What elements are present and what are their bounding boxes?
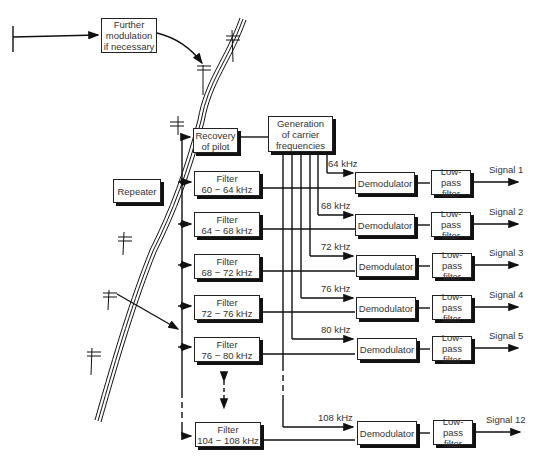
- bandpass-filter-4: Filter72 − 76 kHz: [194, 295, 260, 320]
- recovery-label: of pilot: [195, 141, 235, 152]
- lowpass-label: Low-pass: [433, 291, 471, 313]
- carrier-label-12: 108 kHz: [318, 412, 353, 423]
- demodulator-label: Demodulator: [358, 220, 412, 231]
- carrier-generation-block: Generation of carrier frequencies: [268, 116, 333, 152]
- further-modulation-label: Further: [104, 19, 155, 30]
- repeater-label: Repeater: [117, 186, 156, 197]
- lowpass-filter-2: Low-passfilter: [431, 212, 471, 237]
- signal-output-5: Signal 5: [489, 330, 523, 341]
- filter-range: 72 − 76 kHz: [202, 308, 253, 319]
- lowpass-filter-5: Low-passfilter: [432, 336, 472, 361]
- filter-range: 104 − 108 kHz: [197, 435, 259, 446]
- lowpass-label: Low-pass: [434, 416, 472, 438]
- filter-range: 60 − 64 kHz: [202, 184, 253, 195]
- demodulator-4: Demodulator: [356, 297, 416, 319]
- filter-range: 64 − 68 kHz: [202, 225, 253, 236]
- lowpass-filter-3: Low-passfilter: [432, 253, 472, 278]
- further-modulation-block: Further modulation if necessary: [101, 18, 157, 53]
- demodulator-2: Demodulator: [355, 214, 415, 236]
- carrier-label-2: 68 kHz: [321, 200, 351, 211]
- carrier-generation-label: frequencies: [276, 140, 325, 151]
- carrier-generation-label: of carrier: [276, 129, 325, 140]
- bandpass-filter-3: Filter68 − 72 kHz: [194, 254, 260, 279]
- filter-title: Filter: [202, 214, 253, 225]
- recovery-of-pilot-block: Recovery of pilot: [193, 128, 238, 153]
- carrier-label-3: 72 kHz: [321, 241, 351, 252]
- filter-title: Filter: [202, 173, 253, 184]
- lowpass-label: filter: [433, 313, 471, 324]
- carrier-label-1: 64 kHz: [328, 158, 358, 169]
- filter-title: Filter: [202, 256, 253, 267]
- signal-output-3: Signal 3: [489, 247, 523, 258]
- demodulator-label: Demodulator: [359, 303, 413, 314]
- bandpass-filter-12: Filter104 − 108 kHz: [195, 422, 261, 447]
- demodulator-label: Demodulator: [358, 178, 412, 189]
- lowpass-label: filter: [433, 271, 471, 282]
- carrier-label-4: 76 kHz: [321, 283, 351, 294]
- signal-output-4: Signal 4: [489, 289, 523, 300]
- further-modulation-label: modulation: [104, 30, 155, 41]
- carrier-generation-label: Generation: [276, 118, 325, 129]
- demodulator-label: Demodulator: [359, 261, 413, 272]
- demodulator-12: Demodulator: [357, 421, 417, 445]
- bandpass-filter-1: Filter60 − 64 kHz: [194, 171, 260, 196]
- carrier-label-5: 80 kHz: [321, 324, 351, 335]
- further-modulation-label: if necessary: [104, 41, 155, 52]
- lowpass-label: Low-pass: [432, 208, 470, 230]
- recovery-label: Recovery: [195, 130, 235, 141]
- filter-title: Filter: [202, 339, 253, 350]
- lowpass-label: filter: [432, 230, 470, 241]
- demodulator-label: Demodulator: [360, 428, 414, 439]
- bandpass-filter-2: Filter64 − 68 kHz: [194, 212, 260, 237]
- lowpass-label: Low-pass: [433, 249, 471, 271]
- filter-range: 76 − 80 kHz: [202, 350, 253, 361]
- lowpass-label: filter: [434, 438, 472, 449]
- signal-output-1: Signal 1: [489, 164, 523, 175]
- lowpass-label: filter: [433, 354, 471, 365]
- lowpass-label: Low-pass: [432, 166, 470, 188]
- demodulator-label: Demodulator: [360, 344, 414, 355]
- lowpass-filter-12: Low-passfilter: [433, 420, 473, 445]
- repeater-block: Repeater: [113, 179, 161, 203]
- signal-output-12: Signal 12: [486, 414, 526, 425]
- demodulator-3: Demodulator: [356, 255, 416, 277]
- signal-output-2: Signal 2: [489, 206, 523, 217]
- demodulator-5: Demodulator: [357, 338, 417, 360]
- filter-range: 68 − 72 kHz: [202, 267, 253, 278]
- lowpass-label: filter: [432, 188, 470, 199]
- filter-title: Filter: [197, 424, 259, 435]
- bandpass-filter-5: Filter76 − 80 kHz: [194, 337, 260, 362]
- demodulator-1: Demodulator: [355, 172, 415, 194]
- lowpass-filter-1: Low-passfilter: [431, 170, 471, 195]
- lowpass-filter-4: Low-passfilter: [432, 295, 472, 320]
- filter-title: Filter: [202, 297, 253, 308]
- lowpass-label: Low-pass: [433, 332, 471, 354]
